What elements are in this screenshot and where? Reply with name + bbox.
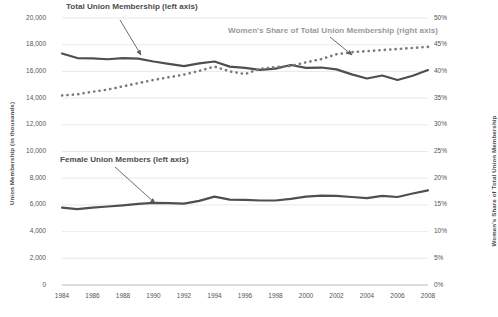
series-line <box>62 54 428 80</box>
womens-share-annotation: Women's Share of Total Union Membership … <box>228 26 438 35</box>
y-axis-tick-label: 20,000 <box>6 14 46 21</box>
x-axis-tick-label: 2008 <box>408 292 448 299</box>
womens-share-arrow <box>330 37 352 55</box>
y2-axis-tick-label: 0% <box>434 281 474 288</box>
y-axis-tick-label: 12,000 <box>6 120 46 127</box>
y2-axis-tick-label: 50% <box>434 14 474 21</box>
y2-axis-tick-label: 25% <box>434 147 474 154</box>
y-axis-tick-label: 18,000 <box>6 40 46 47</box>
female-union-members-arrow <box>115 167 155 203</box>
y2-axis-tick-label: 40% <box>434 67 474 74</box>
series-line <box>62 190 428 209</box>
y-axis-tick-label: 8,000 <box>6 174 46 181</box>
total-union-membership-arrow <box>120 20 141 55</box>
y2-axis-tick-label: 15% <box>434 200 474 207</box>
y-axis-tick-label: 16,000 <box>6 67 46 74</box>
y-axis-tick-label: 14,000 <box>6 94 46 101</box>
union-membership-chart: Union Membership (in thousands) Women's … <box>0 0 498 317</box>
y2-axis-tick-label: 45% <box>434 40 474 47</box>
y-axis-tick-label: 4,000 <box>6 227 46 234</box>
y2-axis-tick-label: 10% <box>434 227 474 234</box>
total-union-membership-annotation: Total Union Membership (left axis) <box>66 2 198 11</box>
y-axis-tick-label: 0 <box>6 281 46 288</box>
y-axis-tick-label: 2,000 <box>6 254 46 261</box>
y2-axis-tick-label: 35% <box>434 94 474 101</box>
y2-axis-tick-label: 30% <box>434 120 474 127</box>
y2-axis-tick-label: 20% <box>434 174 474 181</box>
y2-axis-tick-label: 5% <box>434 254 474 261</box>
y-axis-tick-label: 6,000 <box>6 200 46 207</box>
y-axis-tick-label: 10,000 <box>6 147 46 154</box>
female-union-members-annotation: Female Union Members (left axis) <box>60 155 189 164</box>
